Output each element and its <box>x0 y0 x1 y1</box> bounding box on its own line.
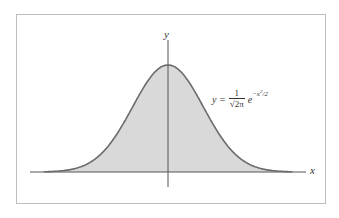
formula-lhs: y = <box>212 94 226 105</box>
y-axis-label: y <box>164 28 169 40</box>
x-axis-label: x <box>310 164 315 176</box>
formula-exponent: −x2/2 <box>252 90 268 98</box>
formula-numerator: 1 <box>234 88 239 98</box>
formula-fraction: 1 √2π <box>229 88 245 110</box>
formula-denominator: √2π <box>229 98 245 110</box>
normal-curve-plot <box>0 0 339 218</box>
density-formula: y = 1 √2π e −x2/2 <box>212 88 268 110</box>
